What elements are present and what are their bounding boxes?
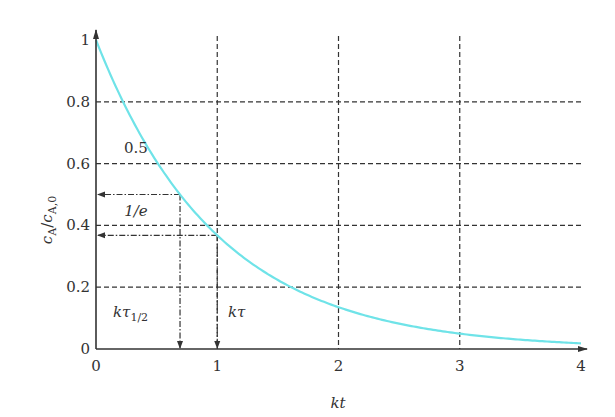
x-tick-label: 1 [212, 357, 222, 375]
annotation-ktau: kτ [228, 303, 246, 321]
y-tick-label: 0.6 [66, 155, 90, 173]
x-tick-label: 4 [576, 357, 586, 375]
x-tick-label: 0 [91, 357, 101, 375]
x-tick-label: 3 [455, 357, 465, 375]
y-tick-label: 0.8 [66, 93, 90, 111]
y-tick-label: 0.4 [66, 216, 90, 234]
decay-chart: 0123400.20.40.60.81 kt cA/cA,0 0.5 1/e k… [0, 0, 615, 417]
svg-text:cA/cA,0: cA/cA,0 [38, 196, 59, 244]
y-tick-label: 0.2 [66, 278, 90, 296]
y-tick-label: 1 [80, 31, 90, 49]
y-tick-label: 0 [80, 340, 90, 358]
axes [96, 30, 587, 349]
annotation-inv-e: 1/e [124, 202, 148, 220]
x-axis-label: kt [330, 394, 346, 412]
annotation-half: 0.5 [124, 139, 148, 157]
annotation-ktau-half: kτ1/2 [113, 303, 148, 324]
y-axis-label: cA/cA,0 [38, 196, 59, 244]
grid-lines [96, 36, 582, 349]
x-tick-label: 2 [334, 357, 344, 375]
